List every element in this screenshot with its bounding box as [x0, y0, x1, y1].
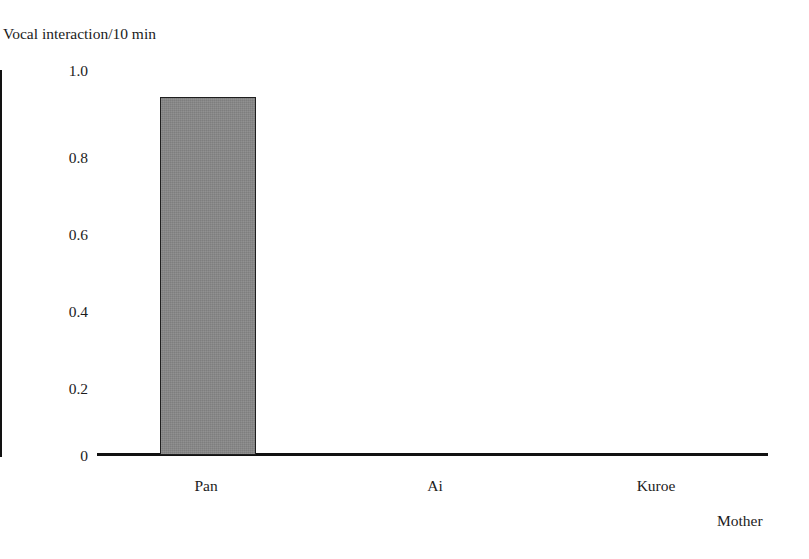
- y-tick-label-0-8: 0.8: [69, 150, 88, 166]
- y-tick-label-0-6: 0.6: [69, 227, 88, 243]
- x-category-label-pan: Pan: [194, 478, 217, 494]
- y-tick-label-0: 0: [80, 448, 88, 464]
- y-tick-label-1-0: 1.0: [69, 63, 88, 79]
- y-axis-tick-labels: 1.0 0.8 0.6 0.4 0.2 0: [0, 0, 88, 559]
- y-tick-label-0-2: 0.2: [69, 381, 88, 397]
- bar-chart-figure: Vocal interaction/10 min 1.0 0.8 0.6 0.4…: [0, 0, 809, 559]
- y-tick-label-0-4: 0.4: [69, 304, 88, 320]
- x-category-label-ai: Ai: [427, 478, 443, 494]
- x-category-label-kuroe: Kuroe: [637, 478, 676, 494]
- plot-area: [97, 70, 768, 455]
- y-axis-line: [0, 70, 2, 457]
- bar-pan: [160, 97, 256, 455]
- x-axis-caption: Mother: [717, 512, 763, 530]
